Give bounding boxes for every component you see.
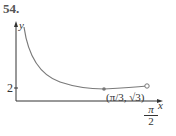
x-axis-label: x (158, 99, 163, 111)
x-tick-label: π 2 (144, 104, 158, 127)
y-tick-label: 2 (7, 81, 13, 96)
open-endpoint-marker (145, 84, 149, 88)
x-tick-denominator: 2 (144, 116, 158, 127)
y-axis-arrow-icon (14, 21, 18, 27)
curve (24, 27, 147, 89)
y-axis-label: y (19, 19, 24, 31)
point-label: (π/3, √3) (106, 91, 144, 103)
